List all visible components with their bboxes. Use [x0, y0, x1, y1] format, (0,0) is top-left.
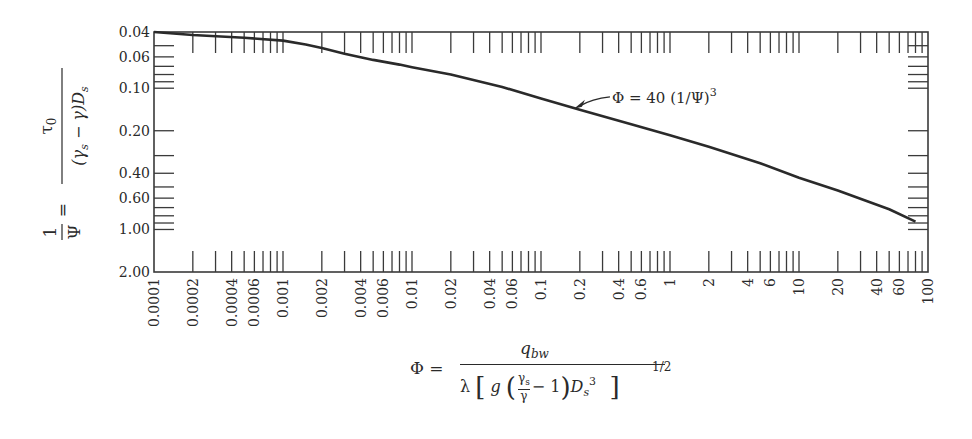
x-tick-label: 0.4: [611, 278, 627, 300]
x-tick-label: 0.0002: [185, 278, 201, 327]
x-title-denominator: λ [ g (γsγ− 1)Ds3 ]: [460, 372, 620, 402]
x-tick-label: 0.06: [504, 278, 520, 309]
x-tick-label: 40: [869, 278, 885, 296]
x-tick-label: 0.6: [633, 278, 649, 300]
y-tick-label: 0.10: [119, 80, 150, 96]
y-title-denominator: (γs − γ)Ds: [69, 86, 91, 166]
x-tick-label: 0.1: [533, 278, 549, 300]
curve-annotation: Φ = 40 (1/Ψ)3: [574, 86, 717, 109]
x-tick-label: 20: [830, 278, 846, 296]
x-axis-title: Φ = qbw λ [ g (γsγ− 1)Ds3 ] 1/2: [400, 338, 690, 433]
x-title-fraction-bar: [460, 364, 665, 365]
x-tick-label: 0.04: [482, 278, 498, 309]
x-tick-label: 100: [920, 278, 936, 305]
x-tick-label: 4: [740, 278, 756, 287]
x-tick-label: 0.002: [314, 278, 330, 318]
y-tick-label: 0.60: [119, 190, 150, 206]
x-tick-label: 1: [662, 278, 678, 287]
x-tick-label: 0.01: [404, 278, 420, 309]
y-tick-label: 0.06: [119, 49, 150, 65]
x-tick-label: 0.0006: [246, 278, 262, 327]
x-tick-label: 2: [701, 278, 717, 287]
x-title-exponent: 1/2: [652, 360, 671, 374]
y-title-psi: Ψ: [64, 224, 84, 239]
x-tick-label: 0.02: [443, 278, 459, 309]
x-tick-label: 0.0001: [146, 278, 162, 327]
annotation-arrow-shaft: [580, 97, 610, 106]
y-tick-label: 0.20: [119, 123, 150, 139]
x-tick-label: 0.006: [375, 278, 391, 318]
y-axis-title: 1Ψ=τ0(γs − γ)Ds: [36, 68, 91, 240]
x-tick-label: 0.001: [275, 278, 291, 318]
y-tick-label: 2.00: [119, 264, 150, 280]
x-tick-label: 0.004: [353, 278, 369, 318]
y-tick-label: 1.00: [119, 221, 150, 237]
x-tick-labels: 0.00010.00020.00040.00060.0010.0020.0040…: [146, 278, 936, 327]
x-title-lhs: Φ =: [410, 358, 444, 378]
x-tick-label: 60: [891, 278, 907, 296]
phi-psi-curve: [154, 32, 916, 222]
annotation-label: Φ = 40 (1/Ψ)3: [612, 86, 717, 107]
y-tick-label: 0.04: [119, 24, 150, 40]
y-title-tau: τ0: [36, 117, 59, 134]
axis-ticks: [154, 32, 928, 272]
y-title-equals: =: [52, 203, 72, 217]
x-title-numerator: qbw: [520, 338, 549, 361]
x-tick-label: 6: [762, 278, 778, 287]
plot-frame: [154, 32, 928, 272]
x-tick-label: 0.2: [572, 278, 588, 300]
y-title-one: 1: [40, 227, 60, 238]
plot-border: [154, 32, 928, 272]
y-tick-labels: 0.040.060.100.200.400.601.002.00: [119, 24, 150, 280]
y-tick-label: 0.40: [119, 165, 150, 181]
data-curve: [154, 32, 916, 222]
x-tick-label: 10: [791, 278, 807, 296]
x-tick-label: 0.0004: [224, 278, 240, 327]
